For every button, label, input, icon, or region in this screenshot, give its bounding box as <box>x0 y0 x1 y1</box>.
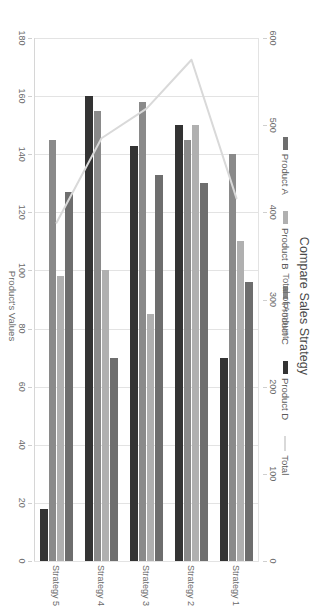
primary-axis-tickmark <box>28 503 32 504</box>
bar-product-b-strategy-4[interactable] <box>102 270 110 561</box>
secondary-axis-ticks: 0100200300400500600 <box>263 38 277 561</box>
bar-product-d-strategy-3[interactable] <box>130 146 138 561</box>
bar-product-d-strategy-5[interactable] <box>40 509 48 561</box>
secondary-axis-tick-label: 600 <box>268 30 278 45</box>
secondary-axis-tickmark <box>263 561 267 562</box>
bar-product-d-strategy-4[interactable] <box>85 96 93 561</box>
secondary-axis-tickmark <box>263 38 267 39</box>
secondary-axis-tick-label: 200 <box>268 379 278 394</box>
category-label-strategy-2: Strategy 2 <box>187 565 197 606</box>
bar-product-c-strategy-4[interactable] <box>94 111 102 561</box>
bar-product-c-strategy-5[interactable] <box>49 140 57 561</box>
primary-axis-tick-label: 20 <box>17 498 27 508</box>
primary-axis-tick-label: 40 <box>17 440 27 450</box>
primary-axis-tick-label: 0 <box>17 558 27 563</box>
axis-line-top <box>258 38 259 561</box>
secondary-axis-title: Total of Amount <box>281 0 292 612</box>
primary-axis-title: Product's Values <box>7 0 18 612</box>
category-label-strategy-4: Strategy 4 <box>97 565 107 606</box>
category-axis-labels: Strategy 1Strategy 2Strategy 3Strategy 4… <box>34 563 259 612</box>
secondary-axis-tick-label: 500 <box>268 118 278 133</box>
secondary-axis-tickmark <box>263 300 267 301</box>
secondary-axis-tickmark <box>263 125 267 126</box>
gridline <box>34 561 259 562</box>
primary-axis-tick-label: 120 <box>17 205 27 220</box>
bar-product-b-strategy-1[interactable] <box>237 241 245 561</box>
primary-axis-tick-label: 100 <box>17 263 27 278</box>
primary-axis-ticks: 020406080100120140160180 <box>18 38 32 561</box>
bar-product-b-strategy-3[interactable] <box>147 314 155 561</box>
secondary-axis-tick-label: 100 <box>268 466 278 481</box>
primary-axis-tick-label: 140 <box>17 147 27 162</box>
bar-product-c-strategy-1[interactable] <box>229 154 237 561</box>
chart-root: Compare Sales Strategy Product AProduct … <box>3 0 314 612</box>
category-label-strategy-1: Strategy 1 <box>232 565 242 606</box>
secondary-axis-tickmark <box>263 212 267 213</box>
category-label-strategy-5: Strategy 5 <box>52 565 62 606</box>
primary-axis-tickmark <box>28 445 32 446</box>
bar-product-d-strategy-1[interactable] <box>220 358 228 561</box>
bar-product-a-strategy-4[interactable] <box>110 358 118 561</box>
plot-area <box>34 38 259 561</box>
bar-product-d-strategy-2[interactable] <box>175 125 183 561</box>
primary-axis-tickmark <box>28 96 32 97</box>
bar-product-c-strategy-3[interactable] <box>139 102 147 561</box>
bar-product-a-strategy-3[interactable] <box>155 175 163 561</box>
bar-product-b-strategy-2[interactable] <box>192 125 200 561</box>
bar-product-a-strategy-1[interactable] <box>245 282 253 561</box>
primary-axis-tick-label: 60 <box>17 382 27 392</box>
secondary-axis-tickmark <box>263 387 267 388</box>
rotated-chart-stage: Compare Sales Strategy Product AProduct … <box>3 0 314 612</box>
bar-product-c-strategy-2[interactable] <box>184 140 192 561</box>
chart-title: Compare Sales Strategy <box>297 0 311 612</box>
primary-axis-tickmark <box>28 387 32 388</box>
primary-axis-tick-label: 160 <box>17 89 27 104</box>
primary-axis-tickmark <box>28 38 32 39</box>
primary-axis-tickmark <box>28 154 32 155</box>
primary-axis-tickmark <box>28 329 32 330</box>
bar-product-b-strategy-5[interactable] <box>57 276 65 561</box>
category-label-strategy-3: Strategy 3 <box>142 565 152 606</box>
secondary-axis-tick-label: 0 <box>268 558 278 563</box>
gridline <box>34 96 259 97</box>
primary-axis-tickmark <box>28 212 32 213</box>
secondary-axis-tick-label: 300 <box>268 292 278 307</box>
axis-line-bottom <box>34 38 35 561</box>
secondary-axis-tick-label: 400 <box>268 205 278 220</box>
primary-axis-tick-label: 80 <box>17 324 27 334</box>
primary-axis-tickmark <box>28 561 32 562</box>
gridline <box>34 154 259 155</box>
primary-axis-tick-label: 180 <box>17 30 27 45</box>
bar-product-a-strategy-5[interactable] <box>65 192 73 561</box>
bar-product-a-strategy-2[interactable] <box>200 183 208 561</box>
primary-axis-tickmark <box>28 270 32 271</box>
secondary-axis-tickmark <box>263 474 267 475</box>
gridline <box>34 38 259 39</box>
